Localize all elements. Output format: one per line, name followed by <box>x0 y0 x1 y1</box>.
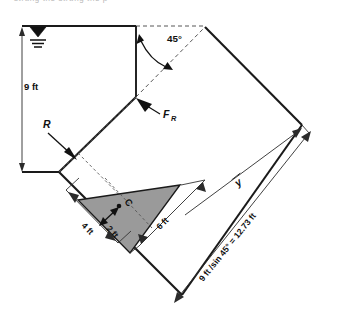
ybar-label: y <box>231 175 245 189</box>
depth-label: 9 ft <box>24 81 39 92</box>
ybar-dimension-line <box>185 130 300 215</box>
reaction-force-group: R <box>43 118 77 160</box>
angle-indicator-group: 45° <box>137 33 182 70</box>
ybar-dimension-group: y <box>185 128 302 215</box>
gate-top-right-edge <box>205 27 302 125</box>
depth-arrow-bottom-icon <box>19 163 25 172</box>
reaction-label: R <box>43 118 51 130</box>
depth-dimension-group: 9 ft <box>19 27 39 172</box>
resultant-force-subscript: R <box>171 114 177 123</box>
angle-arc <box>141 41 166 67</box>
slant-length-dimension-group: 9 ft /sin 45° = 12.73 ft <box>174 131 311 303</box>
hydrostatic-gate-diagram: 9 ft 45° <box>0 0 351 315</box>
depth-arrow-top-icon <box>19 27 25 36</box>
resultant-force-label: F <box>163 108 170 120</box>
base-width-label: 4 ft <box>80 220 96 236</box>
angle-arrow-top-icon <box>137 34 145 44</box>
water-surface-triangle-icon <box>30 27 46 47</box>
gate-structure-outline <box>59 27 302 295</box>
slant-dim-ext-line-2 <box>302 125 309 133</box>
slant-length-dimension-line <box>176 133 309 300</box>
slant-length-label: 9 ft /sin 45° = 12.73 ft <box>197 211 258 283</box>
figure-root: strung the strung the p 9 ft <box>0 0 351 315</box>
resultant-force-arrow-icon <box>136 98 152 112</box>
gate-upper-left-edge <box>59 97 136 172</box>
slant-length-arrow-2-icon <box>301 131 311 142</box>
cropped-caption-text: strung the strung the p <box>14 0 108 3</box>
angle-label: 45° <box>167 33 182 44</box>
resultant-force-group: F R <box>136 98 177 123</box>
